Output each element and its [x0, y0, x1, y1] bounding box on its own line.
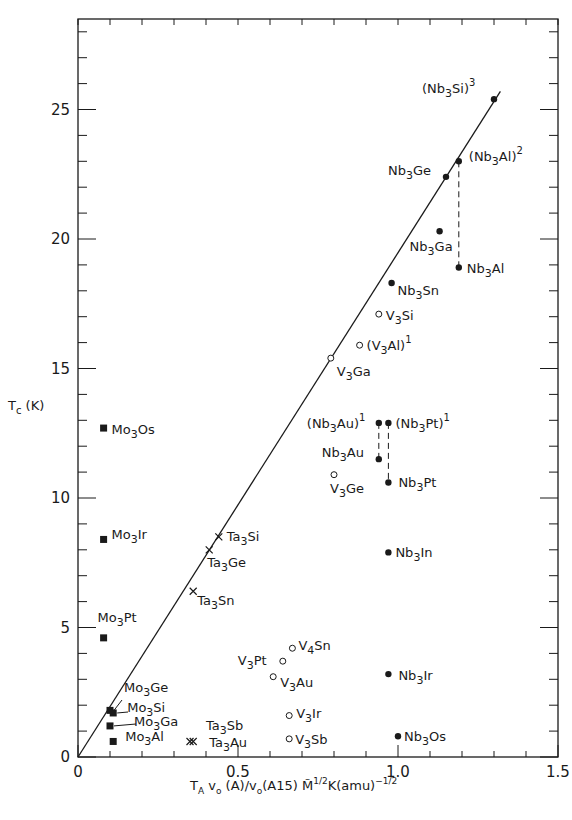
- point-label: Nb3In: [395, 545, 432, 564]
- point-label: Ta3Sn: [196, 593, 234, 612]
- scatter-chart: 00.51.01.50510152025 (Nb3Si)3Nb3Ge(Nb3Al…: [0, 0, 572, 820]
- point-label: (Nb3Au)1: [307, 412, 366, 435]
- filled-circle-marker: [456, 264, 462, 270]
- filled-circle-marker: [376, 420, 382, 426]
- point-label: V4Sn: [298, 638, 330, 657]
- x-axis-label: TA vo (A)/vo(A15) M̃1/2K(amu)−1/2: [189, 776, 397, 796]
- open-circle-marker: [270, 674, 276, 680]
- point-label: (Nb3Pt)1: [395, 412, 449, 435]
- square-marker: [100, 536, 107, 543]
- point-label: V3Ge: [330, 481, 364, 500]
- y-tick-label: 10: [51, 489, 70, 507]
- open-circle-marker: [286, 736, 292, 742]
- cross-marker: [206, 546, 213, 553]
- point-label: Nb3Sn: [398, 283, 439, 302]
- y-tick-label: 0: [60, 748, 70, 766]
- point-label: (V3Al)1: [367, 334, 412, 357]
- open-circle-marker: [286, 713, 292, 719]
- point-label: Nb3Pt: [398, 475, 436, 494]
- filled-circle-marker: [456, 158, 462, 164]
- point-label: V3Si: [386, 308, 414, 327]
- open-circle-marker: [331, 472, 337, 478]
- point-label: Mo3Os: [112, 422, 155, 441]
- point-label: Ta3Ge: [206, 555, 246, 574]
- point-label: Nb3Au: [322, 445, 364, 464]
- point-label: V3Ir: [296, 706, 322, 725]
- open-circle-marker: [289, 645, 295, 651]
- open-circle-marker: [328, 355, 334, 361]
- x-tick-label: 0: [73, 763, 83, 781]
- point-label: (Nb3Si)3: [422, 77, 475, 100]
- filled-circle-marker: [385, 479, 391, 485]
- filled-circle-marker: [376, 456, 382, 462]
- point-label: V3Sb: [295, 732, 327, 751]
- y-tick-label: 25: [51, 101, 70, 119]
- cross-marker: [190, 588, 197, 595]
- filled-circle-marker: [395, 733, 401, 739]
- x-tick-label: 1.5: [546, 763, 570, 781]
- square-marker: [110, 738, 117, 745]
- y-tick-label: 20: [51, 230, 70, 248]
- y-tick-label: 5: [60, 619, 70, 637]
- point-label: Nb3Ge: [388, 163, 431, 182]
- point-label: Mo3Ge: [124, 680, 168, 699]
- square-marker: [110, 709, 117, 716]
- point-label: Nb3Os: [404, 729, 446, 748]
- point-label: Nb3Al: [467, 261, 505, 280]
- square-marker: [100, 634, 107, 641]
- filled-circle-marker: [491, 96, 497, 102]
- filled-circle-marker: [385, 549, 391, 555]
- point-label: Nb3Ir: [398, 668, 433, 687]
- square-marker: [100, 425, 107, 432]
- point-label: Mo3Pt: [98, 610, 137, 629]
- open-circle-marker: [280, 658, 286, 664]
- filled-circle-marker: [443, 174, 449, 180]
- point-label: Mo3Al: [125, 729, 164, 748]
- point-label: V3Pt: [238, 653, 267, 672]
- filled-circle-marker: [385, 671, 391, 677]
- square-marker: [107, 722, 114, 729]
- filled-circle-marker: [388, 280, 394, 286]
- point-label: V3Ga: [337, 364, 371, 383]
- point-labels: (Nb3Si)3Nb3Ge(Nb3Al)2Nb3GaNb3AlNb3Sn(Nb3…: [98, 77, 523, 754]
- filled-circle-marker: [436, 228, 442, 234]
- point-label: Nb3Ga: [410, 239, 453, 258]
- y-axis-label: Tc (K): [7, 398, 44, 416]
- y-tick-label: 15: [51, 360, 70, 378]
- point-label: V3Au: [280, 675, 313, 694]
- axes: 00.51.01.50510152025: [51, 19, 570, 781]
- open-circle-marker: [357, 342, 363, 348]
- filled-circle-marker: [385, 420, 391, 426]
- point-label: (Nb3Al)2: [469, 145, 523, 168]
- point-label: Mo3Ir: [112, 527, 148, 546]
- point-label: Ta3Si: [226, 529, 260, 548]
- open-circle-marker: [376, 311, 382, 317]
- point-label: Ta3Au: [208, 735, 247, 754]
